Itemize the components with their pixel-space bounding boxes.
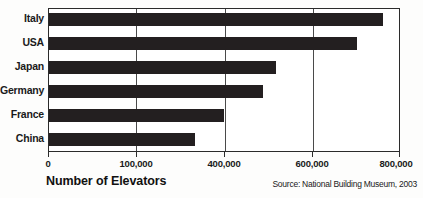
gridline-600000 xyxy=(313,9,314,151)
tick-mark-100000 xyxy=(136,152,137,157)
gridline-100000 xyxy=(136,9,137,151)
plot-area xyxy=(48,8,400,152)
bar-france xyxy=(49,109,224,122)
tick-label-600000: 600,000 xyxy=(296,158,329,169)
bar-japan xyxy=(49,61,276,74)
y-axis-label-italy: Italy xyxy=(0,12,44,25)
bar-usa xyxy=(49,37,357,50)
tick-mark-600000 xyxy=(312,152,313,157)
bar-china xyxy=(49,133,195,146)
tick-mark-800000 xyxy=(399,152,400,157)
y-axis-label-usa: USA xyxy=(0,36,44,49)
elevators-bar-chart: Italy USA Japan Germany France China 0 1… xyxy=(0,0,423,198)
tick-label-100000: 100,000 xyxy=(120,158,153,169)
bar-italy xyxy=(49,13,383,26)
gridline-400000 xyxy=(225,9,226,151)
x-axis-title: Number of Elevators xyxy=(46,174,166,188)
tick-mark-0 xyxy=(48,152,49,157)
bar-germany xyxy=(49,85,263,98)
y-axis-label-china: China xyxy=(0,132,44,145)
tick-label-0: 0 xyxy=(45,158,50,169)
y-axis-label-germany: Germany xyxy=(0,84,44,97)
tick-label-400000: 400,000 xyxy=(208,158,241,169)
tick-mark-400000 xyxy=(224,152,225,157)
source-note: Source: National Building Museum, 2003 xyxy=(272,179,417,189)
tick-label-800000: 800,000 xyxy=(380,158,413,169)
y-axis-label-japan: Japan xyxy=(0,60,44,73)
y-axis-category-labels: Italy USA Japan Germany France China xyxy=(0,8,44,152)
y-axis-label-france: France xyxy=(0,108,44,121)
